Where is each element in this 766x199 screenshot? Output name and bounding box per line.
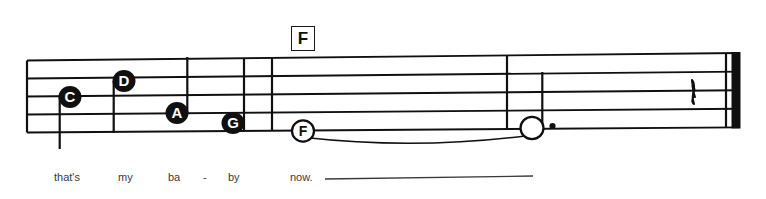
notehead-filled-a-2 bbox=[166, 102, 189, 124]
lyric-syllable: by bbox=[228, 172, 240, 183]
lyric-syllable: now. bbox=[290, 172, 313, 183]
staff-lines bbox=[27, 53, 740, 133]
augmentation-dot-5 bbox=[549, 123, 555, 129]
music-score-page: F CDAGF that'smyba-bynow. bbox=[0, 0, 766, 199]
lyric-hyphen: - bbox=[203, 172, 207, 183]
chord-symbol-label: F bbox=[298, 29, 308, 49]
melisma-extension-line bbox=[325, 176, 533, 179]
chord-symbol-f: F bbox=[291, 26, 315, 51]
notehead-open-f-4 bbox=[292, 120, 314, 141]
staff-line-3 bbox=[27, 90, 740, 96]
rests bbox=[692, 80, 695, 104]
lyric-syllable: that's bbox=[54, 172, 80, 183]
staff-line-4 bbox=[27, 109, 740, 115]
staff-line-5 bbox=[27, 127, 740, 132]
staff-line-1 bbox=[27, 53, 740, 61]
quarter-rest-glyph-0 bbox=[692, 80, 695, 104]
ties bbox=[305, 136, 525, 143]
lyric-syllable: my bbox=[118, 172, 133, 183]
notehead-filled-g-3 bbox=[222, 112, 245, 134]
lyric-syllable: ba bbox=[168, 172, 180, 183]
score-canvas bbox=[0, 0, 766, 199]
barlines bbox=[27, 52, 736, 132]
notehead-filled-d-1 bbox=[113, 70, 136, 92]
noteheads bbox=[59, 57, 556, 149]
notehead-open-x-5 bbox=[521, 117, 544, 139]
melisma-line bbox=[325, 176, 533, 179]
notehead-filled-c-0 bbox=[59, 86, 82, 108]
quarter-rest-0 bbox=[692, 80, 695, 104]
tie-f-to-dotted-half bbox=[305, 136, 525, 143]
